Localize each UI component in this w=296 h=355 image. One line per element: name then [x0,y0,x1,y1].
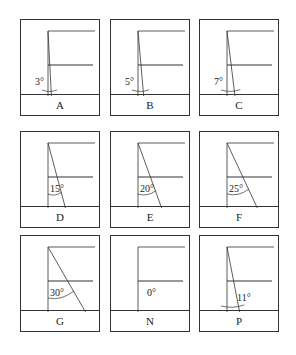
angle-arc-arrow [221,305,244,307]
panel-label: E [111,206,189,227]
panel-label: F [200,206,278,227]
angle-diagram: 20° [111,132,189,208]
angle-diagram: 5° [111,20,189,96]
angle-arc-arrow [221,90,240,92]
angle-arc-arrow [42,90,57,92]
slanted-line [138,143,162,208]
angle-diagram: 30° [21,236,99,312]
panel-f: 25° F [199,131,279,228]
angle-diagram: 15° [21,132,99,208]
angle-value-label: 0° [147,287,156,298]
angle-diagram: 25° [200,132,278,208]
panel-label: A [21,94,99,115]
angle-value-label: 11° [237,292,251,303]
panel-label: G [21,310,99,331]
panel-e: 20° E [110,131,190,228]
angle-diagram: 3° [21,20,99,96]
angle-value-label: 30° [50,287,64,298]
angle-diagram: 0° [111,236,189,312]
slanted-line [138,31,144,96]
panel-label: P [200,310,278,331]
angle-value-label: 20° [140,183,154,194]
slanted-line [48,143,65,208]
panel-d: 15° D [20,131,100,228]
angle-diagram: 11° [200,236,278,312]
panel-g: 30° G [20,235,100,332]
panel-p: 11° P [199,235,279,332]
angle-value-label: 25° [229,183,243,194]
angle-value-label: 3° [35,76,44,87]
panel-b: 5° B [110,19,190,116]
panel-label: D [21,206,99,227]
angle-arc-arrow [132,90,149,92]
angle-value-label: 5° [125,76,134,87]
slanted-line [227,31,235,96]
slanted-line [227,143,257,208]
slanted-line [48,247,86,312]
panel-a: 3° A [20,19,100,116]
angle-value-label: 15° [50,183,64,194]
slanted-line [48,31,51,96]
angle-diagram: 7° [200,20,278,96]
panel-label: C [200,94,278,115]
panel-c: 7° C [199,19,279,116]
panel-label: B [111,94,189,115]
angle-value-label: 7° [214,76,223,87]
panel-label: N [111,310,189,331]
panel-n: 0° N [110,235,190,332]
